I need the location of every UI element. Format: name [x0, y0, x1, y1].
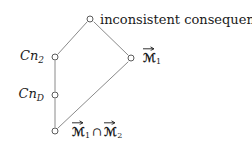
node-inconsistent-consequence: [87, 16, 94, 23]
vector-m-1: ℳ1: [143, 50, 161, 66]
edge-top-m1: [94, 22, 128, 55]
edge-top-cn2: [58, 22, 87, 54]
label-cn-d-base: Cn: [18, 86, 36, 101]
label-m2-bottom-base: ℳ: [104, 125, 117, 139]
vector-m-2-bottom: ℳ2: [104, 124, 122, 140]
label-cn-2: Cn2: [20, 49, 44, 65]
label-m-1: ℳ1: [143, 50, 161, 66]
node-cn-d: [52, 92, 59, 99]
node-m1-intersect-m2: [52, 128, 59, 135]
node-cn-2: [52, 54, 59, 61]
label-cn-d-subscript: D: [37, 93, 44, 103]
lattice-diagram: inconsistent consequence Cn2 CnD ℳ1 ℳ1∩ℳ…: [0, 0, 252, 150]
label-m-1-subscript: 1: [156, 57, 161, 66]
vector-m-1-bottom: ℳ1: [72, 124, 90, 140]
intersection-operator: ∩: [90, 125, 104, 139]
label-cn-2-subscript: 2: [38, 55, 44, 65]
label-m1-bottom-base: ℳ: [72, 125, 85, 139]
label-cn-d: CnD: [18, 87, 44, 103]
label-m2-bottom-subscript: 2: [117, 131, 122, 140]
label-m-1-base: ℳ: [143, 51, 156, 65]
label-cn-2-base: Cn: [20, 48, 38, 63]
label-m1-intersect-m2: ℳ1∩ℳ2: [72, 124, 122, 140]
edge-bottom-m1: [58, 62, 128, 128]
label-m1-bottom-subscript: 1: [85, 131, 90, 140]
node-m-1: [128, 55, 135, 62]
label-inconsistent-consequence: inconsistent consequence: [100, 13, 252, 26]
